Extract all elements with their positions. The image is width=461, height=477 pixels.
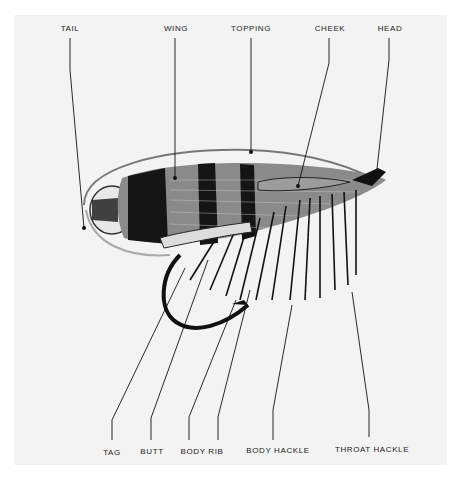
label-head: HEAD: [378, 24, 403, 33]
label-body-rib: BODY RIB: [181, 447, 224, 456]
label-cheek: CHEEK: [315, 24, 346, 33]
label-butt: BUTT: [140, 447, 163, 456]
leader-lines: [70, 38, 389, 440]
label-body-hackle: BODY HACKLE: [246, 446, 309, 455]
label-topping: TOPPING: [231, 24, 271, 33]
label-wing: WING: [164, 24, 188, 33]
salmon-fly-illustration: [0, 0, 461, 477]
label-throat-hackle: THROAT HACKLE: [335, 445, 409, 454]
label-tag: TAG: [103, 448, 121, 457]
label-tail: TAIL: [61, 24, 80, 33]
